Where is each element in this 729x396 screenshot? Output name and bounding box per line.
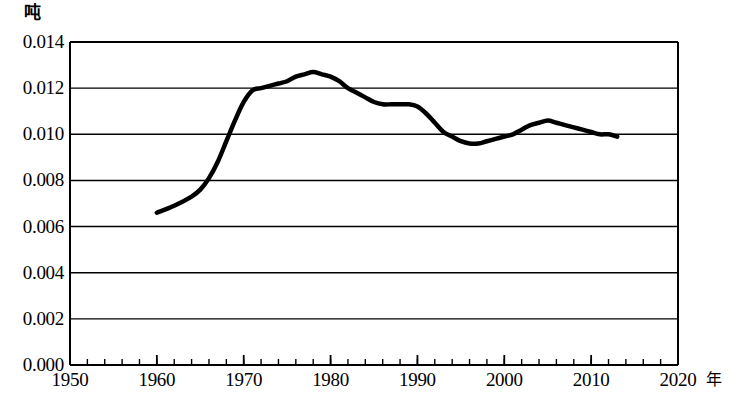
gridlines xyxy=(70,42,678,365)
x-axis-major-ticks xyxy=(70,355,678,365)
plot-area xyxy=(0,0,729,396)
axis-frame xyxy=(70,42,678,365)
data-series-group xyxy=(157,72,617,213)
chart-container: 吨 年 0.0000.0020.0040.0060.0080.0100.0120… xyxy=(0,0,729,396)
